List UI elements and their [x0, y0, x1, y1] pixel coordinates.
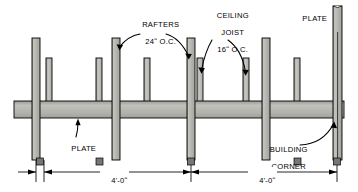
plate-bottom-label: PLATE [57, 136, 101, 162]
joist-spacing-text: 16ʺ O.C. [217, 45, 248, 54]
dimension-right-text: 4'-0ʺ [259, 176, 275, 185]
rafter [32, 38, 40, 160]
ceiling-label-text: CEILING [217, 11, 249, 20]
ceiling-joist-label: CEILING JOIST 16ʺ O.C. [195, 3, 261, 63]
rafters-label: RAFTERS 24ʺ O.C. [125, 12, 187, 55]
dimension-left-text: 4'-0ʺ [111, 176, 127, 185]
building-label-text: BUILDING [270, 145, 308, 154]
plate-top-label-text: PLATE [302, 14, 327, 23]
rafters-spacing-text: 24ʺ O.C. [145, 37, 176, 46]
dimension-label-left: 4'-0ʺ [100, 167, 129, 192]
dimension-label-right: 4'-0ʺ [248, 167, 277, 192]
rafter [112, 38, 120, 160]
plate-top-label: PLATE [288, 6, 332, 32]
plate-bottom-label-text: PLATE [71, 144, 96, 153]
building-corner-member [333, 6, 342, 160]
top-plate [14, 101, 344, 118]
joist-label-text: JOIST [221, 28, 244, 37]
rafters-label-text: RAFTERS [142, 20, 179, 29]
framing-diagram: RAFTERS 24ʺ O.C. CEILING JOIST 16ʺ O.C. … [0, 0, 358, 192]
